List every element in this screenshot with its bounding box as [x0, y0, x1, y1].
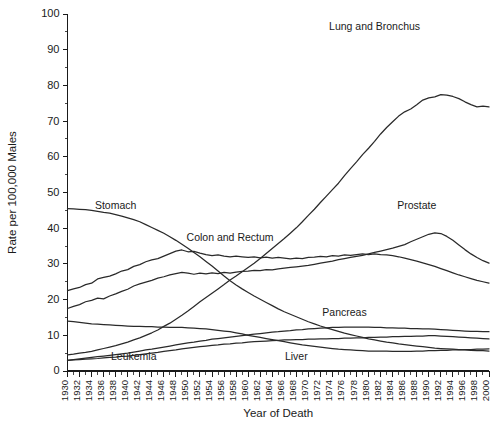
x-tick-label: 1938 — [107, 380, 118, 401]
x-tick-label: 1942 — [131, 380, 142, 401]
x-tick-label: 2000 — [480, 380, 491, 401]
y-tick-label: 60 — [47, 150, 59, 162]
y-tick-label: 90 — [47, 43, 59, 55]
series-label-liver: Liver — [285, 350, 308, 362]
x-tick-label: 1952 — [191, 380, 202, 401]
x-axis-title: Year of Death — [243, 407, 313, 419]
x-tick-label: 1994 — [444, 380, 455, 401]
x-tick-label: 1984 — [384, 380, 395, 401]
x-tick-label: 1962 — [251, 380, 262, 401]
series-label-leukemia: Leukemia — [111, 350, 157, 362]
x-tick-label: 1948 — [167, 380, 178, 401]
y-tick-label: 80 — [47, 79, 59, 91]
x-tick-label: 1982 — [372, 380, 383, 401]
x-tick-label: 1986 — [396, 380, 407, 401]
x-tick-label: 1946 — [155, 380, 166, 401]
y-tick-label: 100 — [41, 7, 59, 19]
y-tick-label: 70 — [47, 115, 59, 127]
series-label-stomach: Stomach — [95, 199, 137, 211]
x-tick-label: 1932 — [71, 380, 82, 401]
series-label-prostate: Prostate — [397, 199, 436, 211]
x-tick-label: 1992 — [432, 380, 443, 401]
y-axis-title: Rate per 100,000 Males — [6, 131, 18, 254]
x-tick-label: 1944 — [143, 380, 154, 401]
y-tick-label: 0 — [53, 364, 59, 376]
x-tick-label: 1998 — [468, 380, 479, 401]
x-tick-label: 1978 — [348, 380, 359, 401]
y-tick-label: 40 — [47, 222, 59, 234]
x-tick-label: 1956 — [215, 380, 226, 401]
x-tick-label: 1930 — [59, 380, 70, 401]
y-tick-label: 50 — [47, 186, 59, 198]
x-tick-label: 1970 — [299, 380, 310, 401]
y-tick-label: 30 — [47, 257, 59, 269]
cancer-death-rate-line-chart: 0102030405060708090100193019321934193619… — [0, 0, 501, 429]
x-tick-label: 1968 — [287, 380, 298, 401]
series-label-colon-and-rectum: Colon and Rectum — [187, 231, 274, 243]
x-tick-label: 1988 — [408, 380, 419, 401]
series-line-lung-and-bronchus — [68, 95, 490, 355]
x-tick-label: 1980 — [360, 380, 371, 401]
x-tick-label: 1966 — [275, 380, 286, 401]
x-tick-label: 1936 — [95, 380, 106, 401]
x-tick-label: 1958 — [227, 380, 238, 401]
series-line-stomach — [68, 209, 490, 351]
y-tick-label: 10 — [47, 329, 59, 341]
y-tick-label: 20 — [47, 293, 59, 305]
x-tick-label: 1974 — [323, 380, 334, 401]
x-tick-label: 1954 — [203, 380, 214, 401]
x-tick-label: 1990 — [420, 380, 431, 401]
series-line-colon-and-rectum — [68, 250, 490, 291]
series-label-lung-and-bronchus: Lung and Bronchus — [329, 20, 420, 32]
x-tick-label: 1976 — [335, 380, 346, 401]
series-label-pancreas: Pancreas — [322, 306, 366, 318]
x-tick-label: 1940 — [119, 380, 130, 401]
x-tick-label: 1950 — [179, 380, 190, 401]
axis-frame — [68, 14, 490, 371]
chart-root: 0102030405060708090100193019321934193619… — [0, 0, 501, 429]
x-tick-label: 1996 — [456, 380, 467, 401]
x-tick-label: 1964 — [263, 380, 274, 401]
x-tick-label: 1960 — [239, 380, 250, 401]
x-tick-label: 1972 — [311, 380, 322, 401]
x-tick-label: 1934 — [83, 380, 94, 401]
